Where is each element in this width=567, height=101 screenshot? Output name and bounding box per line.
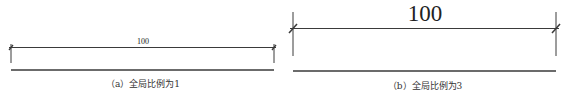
panel-a-drawing (9, 44, 276, 70)
panel-b-dimension-text: 100 (408, 1, 443, 27)
dimension-figure (0, 0, 567, 101)
panel-a-caption: （a）全局比例为1 (106, 77, 180, 90)
panel-a-dimension-text: 100 (137, 37, 149, 46)
panel-b-caption: （b）全局比例为3 (388, 79, 463, 92)
